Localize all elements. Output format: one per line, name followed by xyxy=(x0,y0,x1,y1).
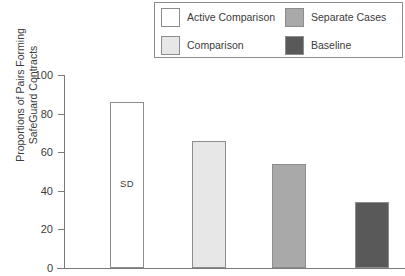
y-axis-tick-label: 100 xyxy=(0,70,53,81)
y-axis-tick xyxy=(58,75,64,76)
y-axis-tick xyxy=(58,152,64,153)
y-axis-line xyxy=(64,75,65,269)
bar-comparison xyxy=(192,141,226,268)
y-axis-tick xyxy=(58,268,64,269)
y-axis-tick xyxy=(58,114,64,115)
y-axis-title: Proportions of Pairs Forming SafeGuard C… xyxy=(14,0,40,191)
bar-separate-cases xyxy=(272,164,306,268)
x-axis-line xyxy=(57,268,405,269)
bar-chart-plot: Proportions of Pairs Forming SafeGuard C… xyxy=(0,0,405,276)
y-axis-tick xyxy=(58,229,64,230)
y-axis-tick-label: 20 xyxy=(0,224,53,235)
bar-annotation-sd: SD xyxy=(110,179,144,189)
y-axis-tick-label: 80 xyxy=(0,109,53,120)
y-axis-tick-label: 0 xyxy=(0,263,53,274)
y-axis-tick-label: 40 xyxy=(0,186,53,197)
y-axis-tick-label: 60 xyxy=(0,147,53,158)
bar-baseline xyxy=(355,202,389,268)
y-axis-tick xyxy=(58,191,64,192)
